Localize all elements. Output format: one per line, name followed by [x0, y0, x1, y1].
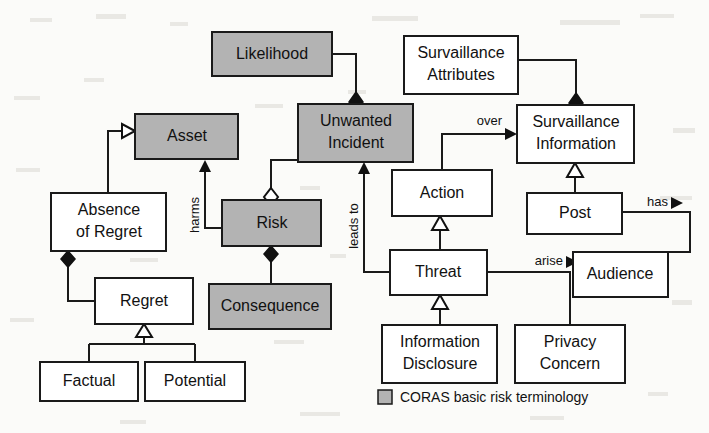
node-survaillance-information[interactable]: Survaillance Information — [517, 105, 634, 163]
edge-post-surveillance-information — [567, 163, 583, 193]
node-threat[interactable]: Threat — [390, 250, 487, 295]
node-label-regret: Regret — [120, 292, 169, 309]
node-survaillance-attributes[interactable]: Survaillance Attributes — [404, 36, 518, 94]
diagram-canvas: Likelihood Survaillance Attributes Asset… — [0, 0, 709, 433]
node-label-audience: Audience — [587, 265, 654, 282]
node-audience[interactable]: Audience — [573, 252, 668, 297]
node-label-survaillance-information-line1: Survaillance — [532, 113, 619, 130]
edge-threat-unwanted-incident-leads-to — [358, 162, 390, 272]
edge-regret-subclasses — [89, 324, 195, 362]
edge-label-over-text: over — [477, 113, 503, 128]
edge-label-arise-text: arise — [535, 253, 563, 268]
edge-label-arise: arise — [535, 253, 563, 268]
node-absence-of-regret[interactable]: Absence of Regret — [51, 193, 166, 251]
node-label-potential: Potential — [164, 372, 226, 389]
node-label-post: Post — [559, 204, 592, 221]
node-regret[interactable]: Regret — [95, 278, 193, 324]
legend-label: CORAS basic risk terminology — [400, 389, 588, 405]
node-label-information-disclosure-line1: Information — [400, 333, 480, 350]
edge-label-harms: harms — [187, 196, 202, 233]
node-label-survaillance-attributes-line2: Attributes — [427, 66, 495, 83]
edge-threat-surveillance-information-over — [442, 128, 517, 170]
node-label-privacy-concern-line1: Privacy — [544, 333, 596, 350]
edge-label-has-text: has — [647, 194, 668, 209]
node-label-privacy-concern-line2: Concern — [540, 355, 600, 372]
edge-threat-action — [432, 216, 448, 250]
edge-label-has: has — [647, 194, 668, 209]
node-label-consequence: Consequence — [221, 297, 320, 314]
node-likelihood[interactable]: Likelihood — [212, 32, 332, 76]
edge-label-harms-text: harms — [187, 196, 202, 233]
node-label-risk: Risk — [256, 214, 288, 231]
node-factual[interactable]: Factual — [40, 362, 138, 401]
edge-label-over: over — [477, 113, 503, 128]
node-label-absence-of-regret-line2: of Regret — [76, 223, 142, 240]
node-label-asset: Asset — [167, 127, 208, 144]
edge-risk-consequence — [264, 246, 278, 284]
legend: CORAS basic risk terminology — [378, 389, 588, 405]
edge-threat-privacy-concern-arise — [487, 256, 578, 325]
node-risk[interactable]: Risk — [222, 200, 321, 246]
edge-label-leads-to: leads to — [346, 203, 361, 249]
node-potential[interactable]: Potential — [145, 362, 245, 401]
node-consequence[interactable]: Consequence — [209, 284, 331, 329]
node-label-threat: Threat — [415, 263, 462, 280]
node-post[interactable]: Post — [527, 193, 622, 234]
node-label-survaillance-information-line2: Information — [536, 135, 616, 152]
node-information-disclosure[interactable]: Information Disclosure — [382, 325, 497, 383]
node-action[interactable]: Action — [392, 170, 492, 216]
node-label-unwanted-incident-line1: Unwanted — [320, 112, 392, 129]
node-privacy-concern[interactable]: Privacy Concern — [515, 325, 625, 383]
edge-absence-of-regret-asset — [108, 124, 135, 193]
node-label-factual: Factual — [63, 372, 115, 389]
edge-risk-asset-harms — [199, 160, 222, 228]
node-label-likelihood: Likelihood — [236, 45, 308, 62]
uml-diagram: Likelihood Survaillance Attributes Asset… — [0, 0, 709, 433]
node-label-action: Action — [420, 184, 464, 201]
node-label-survaillance-attributes-line1: Survaillance — [417, 44, 504, 61]
edge-label-leads-to-text: leads to — [346, 203, 361, 249]
edge-information-disclosure-threat — [432, 295, 448, 325]
node-unwanted-incident[interactable]: Unwanted Incident — [298, 104, 413, 162]
node-label-absence-of-regret-line1: Absence — [78, 201, 140, 218]
node-label-information-disclosure-line2: Disclosure — [403, 355, 478, 372]
edge-absence-of-regret-regret — [61, 251, 95, 301]
node-label-unwanted-incident-line2: Incident — [328, 134, 385, 151]
legend-swatch-icon — [378, 390, 392, 404]
node-asset[interactable]: Asset — [135, 114, 238, 159]
